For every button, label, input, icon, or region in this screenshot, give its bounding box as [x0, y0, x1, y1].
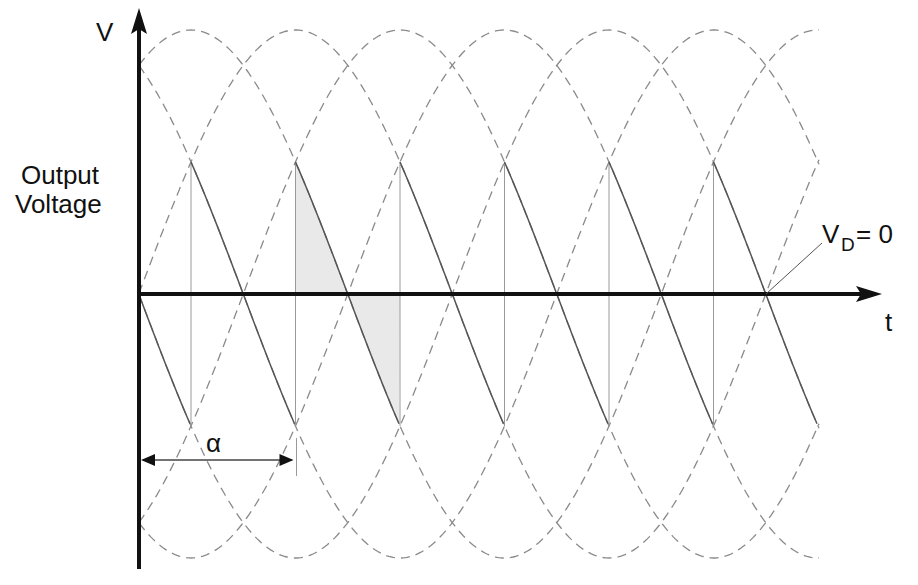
- vd-annotation: V D = 0: [822, 219, 893, 255]
- x-axis-label: t: [885, 307, 893, 337]
- waveform-plot: α V Output Voltage t V D = 0: [0, 0, 918, 585]
- alpha-dimension: α: [141, 428, 297, 476]
- alpha-label: α: [206, 428, 221, 458]
- y-axis-label: V: [96, 17, 114, 47]
- vd-label-subscript: D: [841, 234, 855, 255]
- vd-label-v: V: [822, 219, 840, 249]
- alpha-left-arrow-icon: [141, 454, 155, 466]
- y-axis-caption-voltage: Voltage: [15, 189, 102, 219]
- vd-label-equals-zero: = 0: [856, 219, 893, 249]
- vd-pointer-line: [766, 243, 822, 294]
- y-axis-caption-output: Output: [21, 160, 100, 190]
- alpha-right-arrow-icon: [280, 454, 294, 466]
- rectifier-waveform-diagram: α V Output Voltage t V D = 0: [0, 0, 918, 585]
- output-segment: [139, 295, 190, 424]
